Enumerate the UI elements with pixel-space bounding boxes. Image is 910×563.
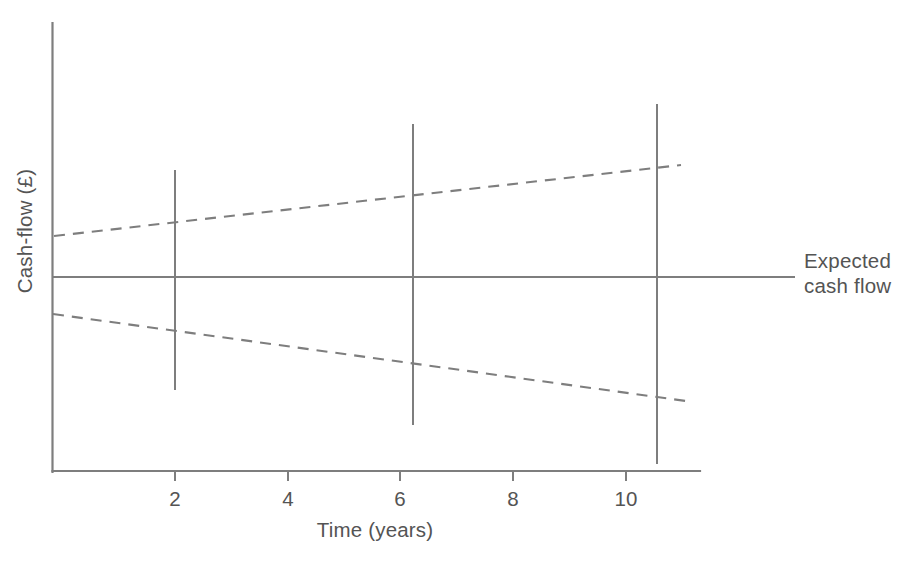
x-tick-label-2: 2 [169,487,181,511]
series-lower-bound [53,314,686,401]
annotation-line-2: cash flow [804,273,891,298]
x-tick-label-4: 4 [282,487,294,511]
y-axis-title: Cash-flow (£) [13,169,37,294]
cash-flow-fan-chart: 2 4 6 8 10 Time (years) Cash-flow (£) Ex… [0,0,910,563]
x-tick-label-6: 6 [394,487,406,511]
chart-canvas [0,0,910,563]
annotation-line-1: Expected [804,248,891,273]
x-tick-label-10: 10 [614,487,637,511]
series-upper-bound [54,165,681,236]
x-axis-title: Time (years) [317,518,434,542]
expected-cash-flow-annotation: Expected cash flow [804,248,891,298]
x-tick-label-8: 8 [507,487,519,511]
